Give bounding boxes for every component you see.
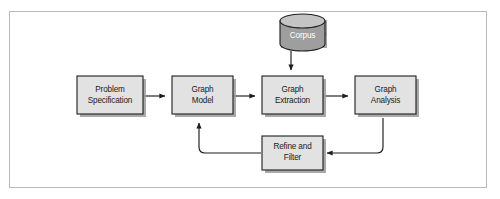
node-problem-specification-label-line2: Specification <box>88 96 133 105</box>
node-refine-and-filter[interactable]: Refine and Filter <box>262 136 326 173</box>
edge-analysis-to-refine <box>327 118 383 153</box>
edge-refine-to-model <box>199 123 261 153</box>
node-graph-extraction-label-line1: Graph <box>281 85 304 94</box>
node-graph-analysis[interactable]: Graph Analysis <box>355 76 419 117</box>
flowchart-canvas: Corpus Problem Specification Graph Model… <box>0 0 500 199</box>
node-corpus-label: Corpus <box>290 31 316 40</box>
node-refine-and-filter-label-line2: Filter <box>284 153 302 162</box>
node-corpus[interactable]: Corpus <box>280 14 327 51</box>
node-graph-model-label-line2: Model <box>192 96 214 105</box>
node-graph-extraction[interactable]: Graph Extraction <box>262 76 326 117</box>
node-graph-analysis-label-line1: Graph <box>374 85 397 94</box>
node-refine-and-filter-label-line1: Refine and <box>273 142 312 151</box>
node-problem-specification-label-line1: Problem <box>95 85 125 94</box>
node-graph-extraction-label-line2: Extraction <box>275 96 311 105</box>
node-graph-analysis-label-line2: Analysis <box>371 96 400 105</box>
node-graph-model[interactable]: Graph Model <box>172 76 236 117</box>
figure-root: Corpus Problem Specification Graph Model… <box>0 0 500 199</box>
node-graph-model-label-line1: Graph <box>191 85 214 94</box>
node-problem-specification[interactable]: Problem Specification <box>77 76 146 117</box>
